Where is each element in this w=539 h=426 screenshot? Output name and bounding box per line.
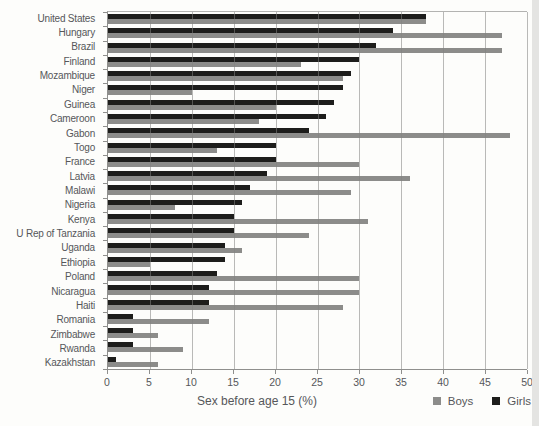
boys-bar xyxy=(108,190,351,195)
gridline-40 xyxy=(443,12,444,369)
category-label: Uganda xyxy=(0,241,100,255)
category-label: Nigeria xyxy=(0,198,100,212)
category-label: Ethiopia xyxy=(0,255,100,269)
y-axis-tick xyxy=(103,155,107,156)
category-label: Niger xyxy=(0,83,100,97)
y-axis-tick xyxy=(103,183,107,184)
category-label: Kazakhstan xyxy=(0,356,100,370)
boys-legend-label: Boys xyxy=(448,395,474,407)
category-label: Zimbabwe xyxy=(0,327,100,341)
boys-bar xyxy=(108,319,209,324)
y-axis-tick xyxy=(103,326,107,327)
y-axis-tick xyxy=(103,269,107,270)
category-label: Romania xyxy=(0,313,100,327)
boys-bar xyxy=(108,205,175,210)
y-axis-tick xyxy=(103,340,107,341)
boys-bar xyxy=(108,233,309,238)
boys-bar xyxy=(108,347,183,352)
y-axis-tick xyxy=(103,126,107,127)
boys-bar xyxy=(108,305,343,310)
legend: Boys Girls xyxy=(433,395,531,407)
boys-bar xyxy=(108,248,242,253)
x-axis-tick xyxy=(485,370,486,374)
y-axis-tick xyxy=(103,169,107,170)
x-axis-tick xyxy=(443,370,444,374)
x-axis-tick xyxy=(191,370,192,374)
y-axis-tick xyxy=(103,141,107,142)
y-axis-tick xyxy=(103,41,107,42)
gridline-35 xyxy=(401,12,402,369)
x-axis-tick xyxy=(401,370,402,374)
category-label: Gabon xyxy=(0,126,100,140)
x-axis-tick xyxy=(233,370,234,374)
category-label: Kenya xyxy=(0,212,100,226)
boys-bar xyxy=(108,133,510,138)
category-label: Brazil xyxy=(0,40,100,54)
gridline-50 xyxy=(527,12,528,369)
y-axis-tick xyxy=(103,298,107,299)
boys-bar xyxy=(108,262,150,267)
x-tick-label: 0 xyxy=(104,376,110,388)
x-tick-label: 5 xyxy=(146,376,152,388)
category-label: France xyxy=(0,155,100,169)
y-axis-tick xyxy=(103,312,107,313)
category-label: Hungary xyxy=(0,25,100,39)
y-axis-tick xyxy=(103,283,107,284)
category-label: Haiti xyxy=(0,298,100,312)
category-label: Togo xyxy=(0,140,100,154)
page-edge-band xyxy=(532,0,539,426)
x-axis-tick xyxy=(107,370,108,374)
gridline-10 xyxy=(192,12,193,369)
gridline-15 xyxy=(234,12,235,369)
category-label: Rwanda xyxy=(0,341,100,355)
plot-area xyxy=(107,11,527,370)
y-axis-tick xyxy=(103,355,107,356)
gridline-25 xyxy=(318,12,319,369)
x-tick-label: 25 xyxy=(311,376,323,388)
y-axis-tick xyxy=(103,226,107,227)
boys-bar xyxy=(108,148,217,153)
x-axis-footer: Sex before age 15 (%) Boys Girls xyxy=(107,394,533,410)
x-axis-tick xyxy=(149,370,150,374)
x-tick-label: 40 xyxy=(437,376,449,388)
x-axis-tick xyxy=(527,370,528,374)
category-labels: United StatesHungaryBrazilFinlandMozambi… xyxy=(0,11,100,370)
boys-bar xyxy=(108,219,368,224)
gridline-20 xyxy=(276,12,277,369)
x-tick-label: 10 xyxy=(185,376,197,388)
x-tick-label: 15 xyxy=(227,376,239,388)
y-axis-tick xyxy=(103,198,107,199)
x-axis-tick xyxy=(275,370,276,374)
category-label: Guinea xyxy=(0,97,100,111)
girls-legend-label: Girls xyxy=(507,395,531,407)
category-label: Latvia xyxy=(0,169,100,183)
category-label: Malawi xyxy=(0,183,100,197)
boys-bar xyxy=(108,119,259,124)
category-label: United States xyxy=(0,11,100,25)
gridline-5 xyxy=(150,12,151,369)
y-axis-tick xyxy=(103,212,107,213)
boys-bar xyxy=(108,62,301,67)
y-axis-tick xyxy=(103,12,107,13)
x-tick-label: 45 xyxy=(479,376,491,388)
x-axis-title: Sex before age 15 (%) xyxy=(107,394,407,408)
category-label: Finland xyxy=(0,54,100,68)
x-axis-tick xyxy=(317,370,318,374)
y-axis-tick xyxy=(103,255,107,256)
gridline-30 xyxy=(359,12,360,369)
boys-bar xyxy=(108,19,426,24)
x-axis-tick xyxy=(359,370,360,374)
x-tick-label: 30 xyxy=(353,376,365,388)
boys-legend-swatch xyxy=(433,397,441,405)
category-label: Poland xyxy=(0,269,100,283)
boys-bar xyxy=(108,76,343,81)
x-tick-label: 20 xyxy=(269,376,281,388)
category-label: U Rep of Tanzania xyxy=(0,226,100,240)
gridline-45 xyxy=(485,12,486,369)
y-axis-tick xyxy=(103,83,107,84)
category-label: Cameroon xyxy=(0,112,100,126)
category-label: Nicaragua xyxy=(0,284,100,298)
y-axis-tick xyxy=(103,26,107,27)
y-axis-tick xyxy=(103,55,107,56)
x-tick-label: 35 xyxy=(395,376,407,388)
